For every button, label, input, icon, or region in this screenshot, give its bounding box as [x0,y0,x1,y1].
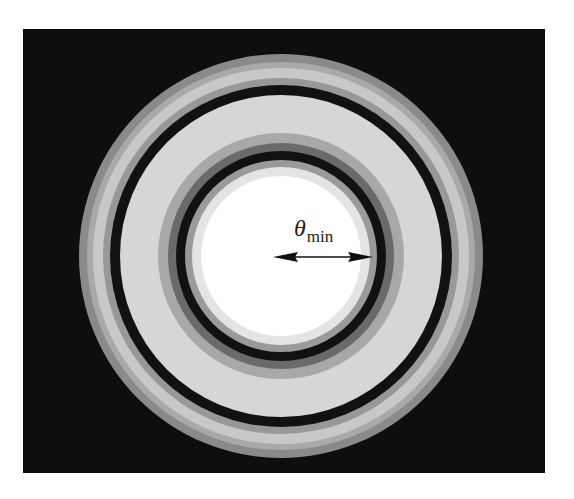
theta-symbol: θ [294,215,306,241]
min-subscript: min [307,227,333,246]
central-disk [201,176,361,336]
diffraction-pattern-frame [23,29,545,473]
theta-min-label: θmin [294,216,332,240]
